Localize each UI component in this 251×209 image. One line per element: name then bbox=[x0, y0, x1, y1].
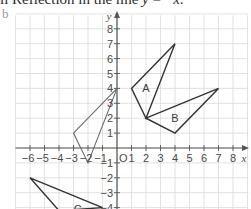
y-axis-label: y bbox=[106, 10, 112, 22]
y-tick-label: 5 bbox=[107, 68, 113, 80]
x-tick-label: 3 bbox=[157, 152, 163, 164]
x-tick-label: 6 bbox=[201, 152, 207, 164]
tick-labels: −6−5−4−3−2−112345678−4−3−2−112345678Oxy bbox=[22, 10, 247, 209]
axes bbox=[16, 11, 250, 209]
x-tick-label: −5 bbox=[36, 152, 49, 164]
x-tick-label: −4 bbox=[51, 152, 64, 164]
y-tick-label: 3 bbox=[107, 97, 113, 109]
x-tick-label: 8 bbox=[230, 152, 236, 164]
triangle-label-a: A bbox=[142, 82, 150, 94]
grid-lines bbox=[16, 14, 249, 209]
x-tick-label: −3 bbox=[65, 152, 78, 164]
y-tick-label: 6 bbox=[107, 53, 113, 65]
x-tick-label: 1 bbox=[128, 152, 134, 164]
triangle-c bbox=[30, 178, 103, 209]
x-tick-label: 5 bbox=[186, 152, 192, 164]
x-axis-arrow-icon bbox=[242, 145, 249, 151]
y-tick-label: −4 bbox=[100, 202, 113, 209]
coordinate-grid: ABC −6−5−4−3−2−112345678−4−3−2−112345678… bbox=[0, 0, 251, 209]
y-tick-label: −3 bbox=[100, 187, 113, 199]
y-tick-label: −2 bbox=[100, 172, 113, 184]
triangle-a bbox=[132, 44, 176, 119]
y-tick-label: 4 bbox=[107, 82, 113, 94]
y-tick-label: 7 bbox=[107, 38, 113, 50]
x-tick-label: −6 bbox=[22, 152, 35, 164]
x-tick-label: 4 bbox=[172, 152, 178, 164]
x-tick-label: 2 bbox=[143, 152, 149, 164]
x-tick-label: −2 bbox=[80, 152, 93, 164]
triangle-b bbox=[146, 88, 219, 133]
triangle-label-b: B bbox=[171, 112, 178, 124]
triangle-label-c: C bbox=[74, 203, 82, 209]
origin-label: O bbox=[119, 152, 128, 164]
x-axis-label: x bbox=[241, 152, 247, 164]
y-axis-arrow-icon bbox=[114, 11, 120, 18]
shapes: ABC bbox=[30, 44, 219, 209]
x-tick-label: 7 bbox=[215, 152, 221, 164]
y-tick-label: −1 bbox=[100, 157, 113, 169]
y-tick-label: 8 bbox=[107, 23, 113, 35]
y-tick-label: 2 bbox=[107, 112, 113, 124]
y-tick-label: 1 bbox=[107, 127, 113, 139]
